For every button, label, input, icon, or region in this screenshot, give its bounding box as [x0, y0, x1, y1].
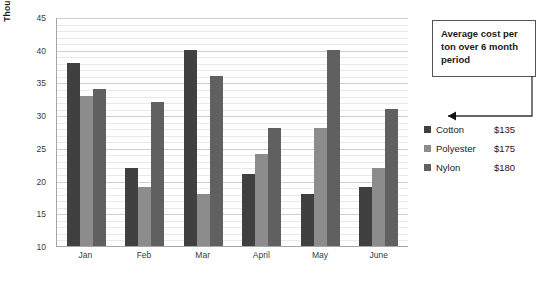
legend-price: $180	[494, 162, 515, 173]
legend-swatch-icon	[424, 145, 431, 152]
bar	[93, 89, 106, 246]
bar	[242, 174, 255, 246]
bar	[151, 102, 164, 246]
bar	[67, 63, 80, 246]
y-axis-tick: 20	[37, 177, 46, 187]
bar-chart: Thousands of tons imported 1015202530354…	[0, 0, 420, 286]
bar-group	[57, 18, 116, 246]
x-axis-tick: June	[349, 250, 408, 260]
bar	[125, 168, 138, 247]
legend-label: Polyester	[436, 143, 494, 154]
y-axis-tick-labels: 1015202530354045	[0, 18, 52, 247]
legend: Cotton$135Polyester$175Nylon$180	[424, 120, 558, 177]
bar-group	[233, 18, 292, 246]
legend-swatch-icon	[424, 164, 431, 171]
x-axis-tick: Mar	[173, 250, 232, 260]
bar	[314, 128, 327, 246]
x-axis-tick-labels: JanFebMarAprilMayJune	[56, 250, 408, 260]
bar	[385, 109, 398, 246]
legend-item: Polyester$175	[424, 139, 558, 158]
legend-item: Cotton$135	[424, 120, 558, 139]
bar	[210, 76, 223, 246]
y-axis-tick: 40	[37, 46, 46, 56]
legend-swatch-icon	[424, 126, 431, 133]
bar	[80, 96, 93, 246]
bar	[268, 128, 281, 246]
bar-group	[350, 18, 409, 246]
bar	[301, 194, 314, 246]
bar	[327, 50, 340, 246]
y-axis-tick: 35	[37, 78, 46, 88]
y-axis-tick: 30	[37, 111, 46, 121]
x-axis-tick: Feb	[115, 250, 174, 260]
y-axis-tick: 10	[37, 242, 46, 252]
bar	[255, 154, 268, 246]
bar-group	[174, 18, 233, 246]
y-axis-tick: 25	[37, 144, 46, 154]
legend-price: $175	[494, 143, 515, 154]
bar-group	[291, 18, 350, 246]
x-axis-tick: May	[291, 250, 350, 260]
bar	[197, 194, 210, 246]
callout-text: Average cost per ton over 6 month period	[441, 28, 518, 65]
bar	[359, 187, 372, 246]
legend-label: Cotton	[436, 124, 494, 135]
x-axis-tick: April	[232, 250, 291, 260]
x-axis-tick: Jan	[56, 250, 115, 260]
callout-box: Average cost per ton over 6 month period	[432, 20, 536, 77]
bar-group	[116, 18, 175, 246]
bar-groups	[57, 18, 408, 246]
chart-page: Thousands of tons imported 1015202530354…	[0, 0, 558, 286]
bar	[184, 50, 197, 246]
bar	[138, 187, 151, 246]
legend-item: Nylon$180	[424, 158, 558, 177]
y-axis-tick: 15	[37, 209, 46, 219]
legend-price: $135	[494, 124, 515, 135]
legend-label: Nylon	[436, 162, 494, 173]
plot-area	[56, 18, 408, 247]
y-axis-tick: 45	[37, 13, 46, 23]
bar	[372, 168, 385, 247]
